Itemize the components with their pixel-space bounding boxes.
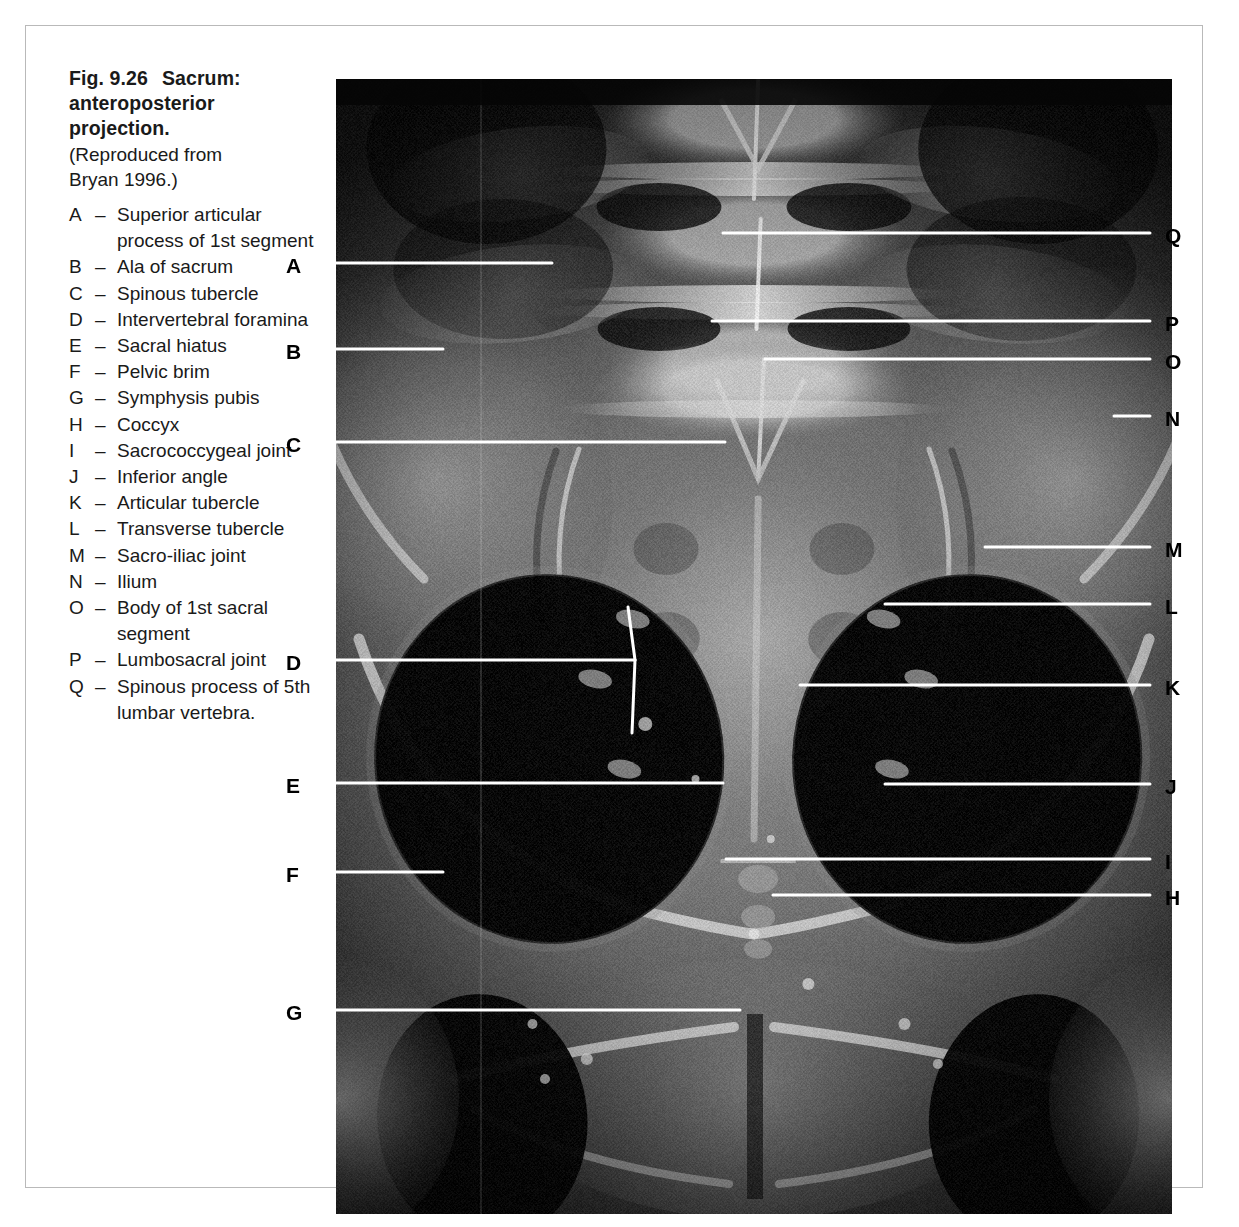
- legend-item: I–Sacrococcygeal joint: [69, 438, 321, 464]
- legend-text: Intervertebral foramina: [117, 307, 321, 333]
- marker-label-a: A: [286, 255, 301, 276]
- legend-item: M–Sacro-iliac joint: [69, 543, 321, 569]
- legend-dash: –: [95, 307, 117, 333]
- legend-text: Pelvic brim: [117, 359, 321, 385]
- legend-text: Sacro-iliac joint: [117, 543, 321, 569]
- figure-source-line1: (Reproduced from: [69, 144, 222, 165]
- figure-title-line3: projection.: [69, 117, 170, 139]
- figure-source-line2: Bryan 1996.): [69, 169, 178, 190]
- legend-dash: –: [95, 595, 117, 647]
- legend-text: Symphysis pubis: [117, 385, 321, 411]
- marker-label-d: D: [286, 652, 301, 673]
- legend-text: Superior articular process of 1st segmen…: [117, 202, 321, 254]
- legend-item: H–Coccyx: [69, 412, 321, 438]
- marker-label-p: P: [1165, 313, 1179, 334]
- legend-dash: –: [95, 569, 117, 595]
- legend-key: H: [69, 412, 95, 438]
- figure-title: Fig. 9.26Sacrum: anteroposterior project…: [69, 66, 321, 141]
- legend-text: Ilium: [117, 569, 321, 595]
- legend-item: P–Lumbosacral joint: [69, 647, 321, 673]
- legend-dash: –: [95, 412, 117, 438]
- legend-item: J–Inferior angle: [69, 464, 321, 490]
- legend-dash: –: [95, 516, 117, 542]
- marker-label-j: J: [1165, 776, 1177, 797]
- legend-key: M: [69, 543, 95, 569]
- legend-key: F: [69, 359, 95, 385]
- legend-dash: –: [95, 385, 117, 411]
- legend-key: L: [69, 516, 95, 542]
- marker-label-o: O: [1165, 351, 1181, 372]
- legend-dash: –: [95, 647, 117, 673]
- figure-title-line1: Sacrum:: [162, 67, 241, 89]
- legend-dash: –: [95, 359, 117, 385]
- marker-label-l: L: [1165, 596, 1178, 617]
- legend-item: K–Articular tubercle: [69, 490, 321, 516]
- legend-key: I: [69, 438, 95, 464]
- legend-item: L–Transverse tubercle: [69, 516, 321, 542]
- marker-label-i: I: [1165, 851, 1171, 872]
- marker-label-b: B: [286, 341, 301, 362]
- legend-text: Spinous tubercle: [117, 281, 321, 307]
- legend-text: Spinous process of 5th lumbar vertebra.: [117, 674, 321, 726]
- legend-text: Transverse tubercle: [117, 516, 321, 542]
- legend-dash: –: [95, 254, 117, 280]
- legend-item: B–Ala of sacrum: [69, 254, 321, 280]
- legend-item: D–Intervertebral foramina: [69, 307, 321, 333]
- radiograph-image: [336, 79, 1172, 1214]
- legend-item: Q–Spinous process of 5th lumbar vertebra…: [69, 674, 321, 726]
- figure-source: (Reproduced from Bryan 1996.): [69, 142, 321, 192]
- legend-key: A: [69, 202, 95, 254]
- marker-label-e: E: [286, 775, 300, 796]
- legend-text: Inferior angle: [117, 464, 321, 490]
- marker-label-c: C: [286, 434, 301, 455]
- legend-item: G–Symphysis pubis: [69, 385, 321, 411]
- legend-dash: –: [95, 281, 117, 307]
- legend-key: Q: [69, 674, 95, 726]
- legend-text: Body of 1st sacral segment: [117, 595, 321, 647]
- legend-list: A–Superior articular process of 1st segm…: [69, 202, 321, 726]
- marker-label-g: G: [286, 1002, 302, 1023]
- legend-key: K: [69, 490, 95, 516]
- legend-key: C: [69, 281, 95, 307]
- legend-key: E: [69, 333, 95, 359]
- legend-dash: –: [95, 490, 117, 516]
- legend-key: J: [69, 464, 95, 490]
- legend-key: G: [69, 385, 95, 411]
- legend-key: O: [69, 595, 95, 647]
- figure-title-line2: anteroposterior: [69, 92, 215, 114]
- legend-key: D: [69, 307, 95, 333]
- legend-item: F–Pelvic brim: [69, 359, 321, 385]
- radiograph-canvas: [336, 79, 1172, 1214]
- legend-dash: –: [95, 674, 117, 726]
- figure-caption-block: Fig. 9.26Sacrum: anteroposterior project…: [69, 66, 321, 726]
- legend-item: C–Spinous tubercle: [69, 281, 321, 307]
- legend-dash: –: [95, 543, 117, 569]
- legend-item: N–Ilium: [69, 569, 321, 595]
- legend-key: B: [69, 254, 95, 280]
- marker-label-f: F: [286, 864, 299, 885]
- figure-number: Fig. 9.26: [69, 67, 148, 89]
- legend-item: O–Body of 1st sacral segment: [69, 595, 321, 647]
- marker-label-m: M: [1165, 539, 1183, 560]
- legend-dash: –: [95, 333, 117, 359]
- legend-dash: –: [95, 202, 117, 254]
- legend-item: A–Superior articular process of 1st segm…: [69, 202, 321, 254]
- marker-label-n: N: [1165, 408, 1180, 429]
- legend-text: Articular tubercle: [117, 490, 321, 516]
- marker-label-k: K: [1165, 677, 1180, 698]
- figure-frame: Fig. 9.26Sacrum: anteroposterior project…: [25, 25, 1203, 1188]
- legend-key: N: [69, 569, 95, 595]
- legend-item: E–Sacral hiatus: [69, 333, 321, 359]
- marker-label-h: H: [1165, 887, 1180, 908]
- legend-dash: –: [95, 464, 117, 490]
- legend-key: P: [69, 647, 95, 673]
- marker-label-q: Q: [1165, 225, 1181, 246]
- legend-dash: –: [95, 438, 117, 464]
